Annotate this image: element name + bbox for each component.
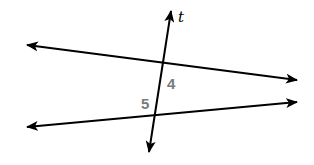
geometry-diagram: t 4 5 <box>0 0 314 165</box>
angle-label-4: 4 <box>167 75 176 92</box>
lower-line <box>27 102 297 127</box>
angle-label-5: 5 <box>141 95 149 112</box>
transversal-label: t <box>178 8 185 26</box>
